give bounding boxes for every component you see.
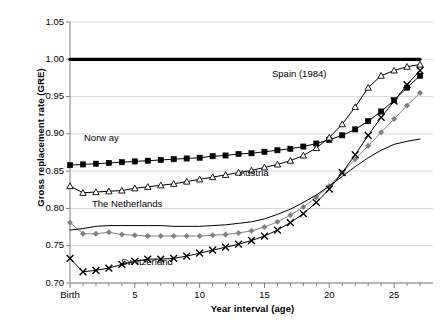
data-marker bbox=[197, 233, 202, 238]
y-tick-label: 0.85 bbox=[22, 165, 64, 176]
data-marker bbox=[145, 233, 150, 238]
data-marker bbox=[301, 144, 306, 149]
data-marker bbox=[236, 151, 241, 156]
data-marker bbox=[236, 230, 241, 235]
data-marker bbox=[261, 233, 268, 240]
x-tick-label: 25 bbox=[374, 289, 414, 300]
data-marker bbox=[262, 149, 267, 154]
data-marker bbox=[119, 232, 124, 237]
data-marker bbox=[417, 73, 422, 78]
data-marker bbox=[275, 219, 280, 224]
data-marker bbox=[210, 233, 215, 238]
data-marker bbox=[249, 228, 254, 233]
data-marker bbox=[67, 183, 73, 189]
data-marker bbox=[119, 160, 124, 165]
data-marker bbox=[93, 161, 98, 166]
data-marker bbox=[197, 155, 202, 160]
x-tick-label: 5 bbox=[115, 289, 155, 300]
y-tick-label: 0.70 bbox=[22, 277, 64, 288]
data-marker bbox=[300, 152, 306, 158]
y-tick-label: 0.95 bbox=[22, 90, 64, 101]
data-marker bbox=[288, 212, 293, 217]
series-label: Sw itzerland bbox=[121, 256, 173, 267]
y-tick-label: 0.75 bbox=[22, 239, 64, 250]
data-marker bbox=[223, 153, 228, 158]
data-marker bbox=[287, 219, 294, 226]
data-marker bbox=[340, 133, 345, 138]
data-marker bbox=[145, 158, 150, 163]
data-marker bbox=[275, 148, 280, 153]
series-label: Spain (1984) bbox=[272, 68, 326, 79]
data-marker bbox=[196, 250, 203, 257]
data-marker bbox=[171, 233, 176, 238]
series-label: Norw ay bbox=[84, 132, 119, 143]
data-marker bbox=[248, 237, 255, 244]
y-tick-label: 1.00 bbox=[22, 53, 64, 64]
data-marker bbox=[106, 230, 111, 235]
series-label: Austria bbox=[239, 167, 269, 178]
data-marker bbox=[235, 241, 242, 248]
data-marker bbox=[209, 247, 216, 254]
data-marker bbox=[184, 156, 189, 161]
data-marker bbox=[106, 160, 111, 165]
series-line bbox=[70, 139, 420, 230]
data-marker bbox=[300, 210, 307, 217]
data-marker bbox=[274, 227, 281, 234]
data-marker bbox=[417, 61, 423, 67]
chart-figure: Gross replacement rate (GRE) Year interv… bbox=[0, 0, 441, 325]
data-marker bbox=[366, 119, 371, 124]
data-marker bbox=[158, 157, 163, 162]
data-marker bbox=[287, 158, 293, 164]
data-marker bbox=[378, 114, 385, 121]
data-marker bbox=[184, 233, 189, 238]
data-marker bbox=[80, 162, 85, 167]
data-marker bbox=[379, 109, 384, 114]
y-tick-label: 1.05 bbox=[22, 16, 64, 27]
series-label: The Netherlands bbox=[92, 198, 162, 209]
data-marker bbox=[171, 157, 176, 162]
data-marker bbox=[353, 127, 358, 132]
data-marker bbox=[93, 231, 98, 236]
data-marker bbox=[158, 233, 163, 238]
chart-plot-area bbox=[0, 0, 441, 325]
y-tick-label: 0.90 bbox=[22, 127, 64, 138]
data-marker bbox=[210, 154, 215, 159]
x-axis-title: Year interval (age) bbox=[70, 303, 435, 314]
x-tick-label: 15 bbox=[244, 289, 284, 300]
data-marker bbox=[132, 159, 137, 164]
x-tick-label: Birth bbox=[50, 289, 90, 300]
data-marker bbox=[352, 104, 358, 110]
data-marker bbox=[222, 244, 229, 251]
y-tick-label: 0.80 bbox=[22, 202, 64, 213]
data-marker bbox=[378, 72, 384, 78]
x-tick-label: 10 bbox=[180, 289, 220, 300]
data-marker bbox=[223, 232, 228, 237]
data-marker bbox=[262, 224, 267, 229]
data-marker bbox=[288, 146, 293, 151]
series-the-netherlands bbox=[70, 139, 420, 230]
data-marker bbox=[365, 132, 372, 139]
x-tick-label: 20 bbox=[309, 289, 349, 300]
data-marker bbox=[132, 233, 137, 238]
data-marker bbox=[67, 163, 72, 168]
data-marker bbox=[249, 151, 254, 156]
